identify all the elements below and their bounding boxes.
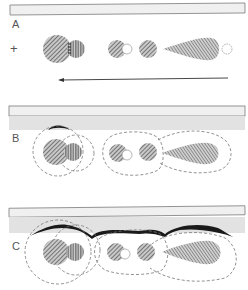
dashed-envelope-pair-c — [95, 230, 168, 275]
large-particle-c — [43, 239, 69, 265]
medium-particle-c — [137, 243, 155, 261]
large-particle-a — [43, 35, 71, 63]
teardrop-particle-c — [162, 241, 221, 264]
electrode-plus-icon: + — [10, 41, 18, 56]
shadow-band-b — [9, 116, 245, 130]
small-particle-c — [66, 243, 84, 261]
migration-arrow — [60, 78, 228, 80]
panel-label-a: A — [12, 18, 19, 30]
surface-a — [10, 3, 245, 15]
medium-particle-a — [139, 40, 157, 58]
panel-c — [9, 206, 245, 284]
void-c — [120, 249, 130, 259]
panel-label-c: C — [12, 240, 20, 252]
diagram-canvas — [0, 0, 248, 290]
empty-circle-a — [222, 44, 232, 54]
panel-label-b: B — [12, 132, 19, 144]
small-particle-b — [64, 143, 82, 161]
arrow-head-icon — [58, 78, 64, 82]
surface-c — [9, 206, 245, 217]
surface-b — [9, 106, 245, 116]
panel-a — [10, 3, 245, 82]
teardrop-particle-b — [162, 143, 219, 164]
small-particle-a — [67, 40, 85, 58]
void-a — [122, 44, 132, 54]
panel-b — [9, 106, 245, 176]
medium-particle-b — [139, 143, 157, 161]
teardrop-particle-a — [163, 38, 219, 60]
void-b — [122, 150, 132, 160]
